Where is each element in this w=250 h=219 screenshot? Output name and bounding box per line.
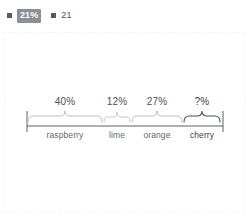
brace-raspberry[interactable]	[28, 111, 102, 122]
square-swatch-icon	[51, 13, 56, 18]
chart-canvas	[0, 32, 250, 213]
brace-segment-chart: 40% 12% 27% ?% raspberry lime orange che…	[0, 32, 250, 213]
square-swatch-icon	[7, 13, 12, 18]
chart-legend: 21% 21	[7, 8, 72, 23]
legend-item-count[interactable]: 21	[51, 8, 71, 23]
axis-group	[27, 111, 223, 132]
brace-cherry[interactable]	[184, 111, 220, 122]
legend-item-label: 21	[61, 10, 71, 21]
legend-item-label: 21%	[17, 9, 41, 23]
brace-lime[interactable]	[104, 112, 130, 122]
brace-orange[interactable]	[132, 111, 182, 122]
legend-item-percent[interactable]: 21%	[7, 8, 41, 23]
